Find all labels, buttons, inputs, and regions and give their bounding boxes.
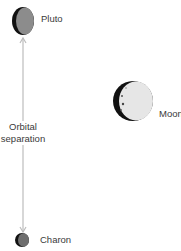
moon-icon [113, 81, 153, 121]
charon-label: Charon [40, 234, 71, 245]
pluto-icon [12, 7, 34, 35]
separation-line1: Orbital [0, 121, 46, 133]
pluto-label: Pluto [41, 13, 63, 24]
moon-label: Moon [159, 108, 181, 119]
separation-line2: separation [0, 133, 46, 145]
orbital-separation-label: Orbital separation [0, 121, 46, 145]
charon-icon [15, 233, 29, 247]
